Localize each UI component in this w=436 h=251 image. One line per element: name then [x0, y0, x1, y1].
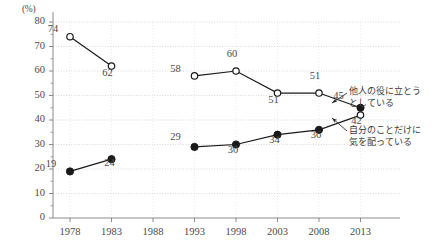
data-point-0-1998 [233, 68, 239, 74]
data-point-0-1978 [67, 34, 73, 40]
data-point-1-1998 [232, 141, 239, 148]
line-chart: (%) 010203040506070801978198319881993199… [0, 0, 436, 251]
annotation-self-oriented: 自分のことだけに 気を配っている [349, 125, 421, 148]
data-point-1-1978 [66, 168, 73, 175]
data-point-1-2003 [274, 131, 281, 138]
annotation-2-line-2: 気を配っている [349, 137, 421, 149]
series-1-line [70, 159, 112, 171]
annotation-1-line-1: 他人の役に立とう [349, 86, 421, 98]
data-point-1-1993 [191, 143, 198, 150]
annotation-2-line-1: 自分のことだけに [349, 125, 421, 137]
data-point-0-2008 [316, 90, 322, 96]
annotation-1-line-2: としている [349, 98, 421, 110]
data-point-0-1993 [191, 73, 197, 79]
data-point-1-2008 [315, 126, 322, 133]
data-point-0-2003 [274, 90, 280, 96]
annotation-other-oriented: 他人の役に立とう としている [349, 86, 421, 109]
data-point-1-1983 [108, 156, 115, 163]
data-point-0-1983 [108, 63, 114, 69]
series-0-line [70, 37, 112, 66]
data-point-1-2013 [357, 112, 363, 118]
